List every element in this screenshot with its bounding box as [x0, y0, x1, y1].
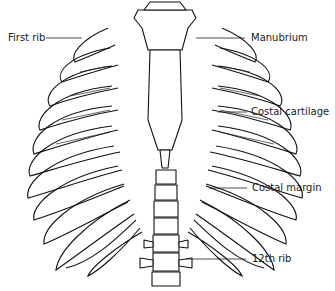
- rib-cage-diagram: First rib Manubrium Costal cartilage Cos…: [0, 0, 335, 291]
- vertebral-column: [140, 170, 192, 286]
- leader-lines: [46, 38, 247, 259]
- label-12th-rib: 12th rib: [252, 253, 291, 265]
- right-ribs: [188, 28, 302, 276]
- xiphoid: [160, 150, 170, 168]
- label-manubrium: Manubrium: [251, 32, 308, 44]
- manubrium-shape: [134, 10, 196, 50]
- sternum-body: [148, 50, 182, 150]
- left-ribs: [28, 28, 142, 276]
- label-costal-margin: Costal margin: [252, 182, 322, 194]
- label-first-rib: First rib: [8, 32, 45, 44]
- label-costal-cartilage: Costal cartilage: [251, 106, 329, 118]
